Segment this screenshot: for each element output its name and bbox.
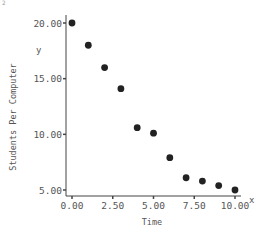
- data-point: [69, 20, 76, 27]
- y-tick-label: 5.00: [39, 185, 62, 196]
- data-point: [215, 182, 222, 189]
- x-axis-letter: x: [249, 195, 255, 205]
- x-axis-title: Time: [142, 217, 162, 227]
- corner-mark: 2: [2, 0, 6, 6]
- y-axis-title: Students Per Computer: [8, 63, 18, 170]
- data-point: [150, 130, 157, 137]
- axes: [66, 15, 241, 196]
- x-tick-label: 7.50: [183, 200, 206, 211]
- x-axis-ticks: 0.002.505.007.5010.00: [61, 196, 250, 211]
- data-point: [101, 64, 108, 71]
- data-point: [134, 124, 141, 131]
- data-point: [199, 178, 206, 185]
- scatter-chart: 2 5.0010.0015.0020.00 0.002.505.007.5010…: [0, 0, 264, 237]
- y-axis-letter: y: [36, 45, 42, 55]
- x-tick-label: 0.00: [61, 200, 84, 211]
- data-point: [183, 174, 190, 181]
- data-point: [118, 85, 125, 92]
- y-tick-label: 10.00: [33, 129, 62, 140]
- y-tick-label: 20.00: [33, 18, 62, 29]
- data-point: [232, 187, 239, 194]
- x-tick-label: 5.00: [142, 200, 165, 211]
- x-tick-label: 2.50: [101, 200, 124, 211]
- y-tick-label: 15.00: [33, 73, 62, 84]
- data-points: [69, 20, 239, 194]
- data-point: [166, 154, 173, 161]
- data-point: [85, 42, 92, 49]
- x-tick-label: 10.00: [221, 200, 250, 211]
